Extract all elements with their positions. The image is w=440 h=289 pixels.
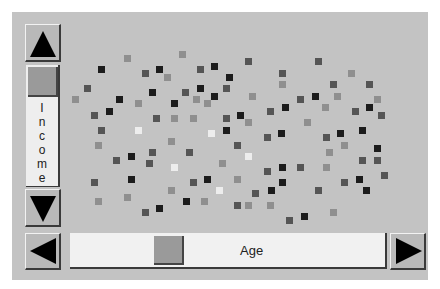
label-letter: n [26,115,58,129]
down-arrow-icon [30,196,56,222]
label-letter: c [26,129,58,143]
income-axis-label: I n c o m e [26,101,58,185]
label-letter: I [26,101,58,115]
scroll-right-button[interactable] [390,233,426,270]
income-slider-track[interactable]: I n c o m e [26,65,60,187]
scroll-up-button[interactable] [25,24,61,62]
up-arrow-icon [30,31,56,57]
age-axis-label: Age [240,243,263,258]
right-arrow-icon [396,238,422,264]
age-slider-track[interactable]: Age [70,233,387,269]
income-slider-thumb[interactable] [28,67,58,97]
left-arrow-icon [30,238,56,264]
scroll-left-button[interactable] [25,233,61,270]
age-slider-thumb[interactable] [154,236,184,265]
scroll-down-button[interactable] [25,189,61,227]
label-letter: m [26,157,58,171]
label-letter: o [26,143,58,157]
label-letter: e [26,171,58,185]
